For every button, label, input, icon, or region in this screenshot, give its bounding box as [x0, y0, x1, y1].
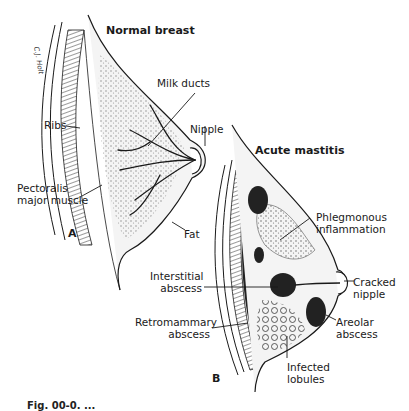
label-areolar-line2: abscess [336, 328, 378, 340]
label-nipple: Nipple [190, 123, 223, 135]
label-infected-line2: lobules [287, 373, 325, 385]
label-areolar-line1: Areolar [336, 316, 374, 328]
panel-a-letter: A [68, 227, 77, 240]
figure-caption: Fig. 00-0. ... [27, 400, 95, 411]
label-milk-ducts: Milk ducts [157, 77, 210, 89]
label-pectoralis-line1: Pectoralis [17, 182, 68, 194]
panel-a-drawing [42, 15, 205, 290]
label-pectoralis-line2: major muscle [17, 194, 88, 206]
label-phlegmonous-line2: inflammation [316, 223, 386, 235]
panel-b-letter: B [212, 372, 220, 385]
panel-b-title: Acute mastitis [255, 145, 344, 157]
label-infected-line1: Infected [287, 361, 330, 373]
label-fat: Fat [184, 228, 200, 240]
label-ribs: Ribs [44, 119, 66, 131]
panel-b-drawing [204, 125, 354, 392]
label-interstitial-line2: abscess [150, 282, 202, 294]
label-retromammary-line1: Retromammary [135, 316, 210, 328]
label-retromammary-line2: abscess [135, 328, 210, 340]
label-interstitial-line1: Interstitial [150, 270, 202, 282]
panel-a-title: Normal breast [106, 25, 195, 37]
label-phlegmonous-line1: Phlegmonous [316, 211, 387, 223]
label-cracked-line1: Cracked [353, 276, 396, 288]
label-cracked-line2: nipple [353, 288, 385, 300]
